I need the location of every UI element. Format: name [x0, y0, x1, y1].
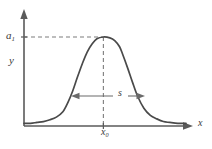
- y-axis: [20, 9, 27, 126]
- figure-container: a1 y x x0 s: [0, 0, 212, 149]
- y-axis-label: y: [9, 55, 14, 66]
- profile-curve: [24, 37, 186, 123]
- x-center-subscript: 0: [105, 131, 108, 138]
- width-marker-arrow: [71, 93, 145, 99]
- peak-amplitude-subscript: 1: [12, 35, 15, 42]
- width-label: s: [118, 88, 122, 98]
- x-axis-label: x: [198, 118, 202, 128]
- peak-amplitude-label: a1: [6, 30, 15, 41]
- x-center-label: x0: [101, 127, 109, 137]
- peak-amplitude-symbol: a: [6, 29, 12, 41]
